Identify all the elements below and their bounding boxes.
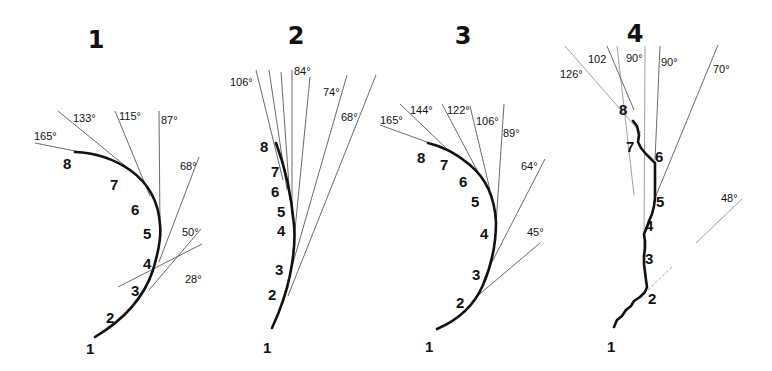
angle-label: 115° [119, 110, 141, 122]
point-label: 1 [263, 339, 271, 356]
panel-title: 3 [455, 22, 472, 50]
point-label: 7 [626, 138, 634, 155]
point-label: 2 [456, 294, 464, 311]
point-label: 8 [619, 101, 627, 118]
tangent-line [696, 199, 742, 243]
tangent-line [492, 159, 545, 262]
angle-label: 165° [380, 114, 403, 126]
angle-label: 68° [341, 111, 358, 123]
point-label: 6 [655, 148, 663, 165]
point-label: 3 [275, 261, 283, 278]
tangent-line [475, 243, 540, 298]
point-label: 1 [425, 338, 433, 355]
angle-label: 106° [230, 76, 253, 88]
tangent-line [380, 125, 427, 142]
tangent-line [655, 46, 660, 160]
angle-label: 84° [294, 65, 311, 77]
point-label: 7 [110, 176, 118, 193]
angle-label: 90° [626, 52, 643, 64]
angle-label: 165° [34, 130, 57, 142]
panel-title: 1 [88, 26, 105, 54]
angle-label: 106° [476, 115, 499, 127]
point-label: 6 [459, 173, 467, 190]
angle-label: 90° [661, 56, 678, 68]
angle-label: 50° [182, 226, 199, 238]
panel-title: 2 [288, 22, 305, 50]
point-label: 5 [143, 225, 151, 242]
point-label: 1 [86, 340, 94, 357]
panel-title: 4 [627, 20, 644, 48]
point-label: 6 [131, 201, 139, 218]
panel-4: 4 48° 70° 90° 90° 102 126° 1 2 3 4 5 6 7… [560, 20, 742, 355]
panel-2: 2 68° 74° 84° 106° 1 2 3 4 5 6 7 8 [230, 22, 376, 356]
point-label: 5 [471, 193, 479, 210]
angle-label: 87° [161, 114, 178, 126]
tangent-line [617, 46, 634, 195]
tangent-line [295, 77, 310, 230]
tangent-line [288, 75, 376, 296]
angle-label: 126° [560, 68, 583, 80]
trajectory-figure: 1 28° 50° 68° 87° 115° 133° 165° 1 2 3 4… [0, 0, 772, 371]
panel-1: 1 28° 50° 68° 87° 115° 133° 165° 1 2 3 4… [34, 26, 202, 357]
point-label: 2 [106, 309, 114, 326]
point-label: 1 [607, 338, 615, 355]
angle-label: 89° [503, 127, 520, 139]
point-label: 4 [645, 217, 654, 234]
point-label: 5 [277, 203, 285, 220]
angle-label: 48° [721, 192, 738, 204]
angle-label: 144° [410, 104, 433, 116]
point-label: 2 [648, 290, 656, 307]
angle-label: 70° [713, 63, 730, 75]
point-label: 6 [271, 183, 279, 200]
point-label: 7 [271, 163, 279, 180]
point-label: 7 [440, 156, 448, 173]
angle-label: 28° [185, 273, 202, 285]
angle-label: 74° [323, 86, 340, 98]
angle-label: 122° [447, 104, 470, 116]
angle-label: 68° [180, 160, 197, 172]
point-label: 4 [277, 222, 286, 239]
point-label: 4 [143, 255, 152, 272]
point-label: 8 [63, 155, 71, 172]
point-label: 5 [656, 193, 664, 210]
angle-label: 102 [588, 53, 606, 65]
point-label: 3 [131, 282, 139, 299]
point-label: 3 [645, 250, 653, 267]
angle-label: 45° [527, 226, 544, 238]
angle-label: 64° [521, 160, 538, 172]
point-label: 2 [268, 286, 276, 303]
tangent-line [159, 157, 199, 262]
tangent-line [648, 266, 673, 290]
point-label: 4 [480, 225, 489, 242]
angle-label: 133° [73, 112, 96, 124]
tangent-line [291, 75, 347, 270]
point-label: 8 [417, 149, 425, 166]
panel-3: 3 45° 64° 89° 106° 122° 144° 165° 1 2 3 … [380, 22, 545, 355]
point-label: 8 [260, 138, 268, 155]
point-label: 3 [472, 266, 480, 283]
